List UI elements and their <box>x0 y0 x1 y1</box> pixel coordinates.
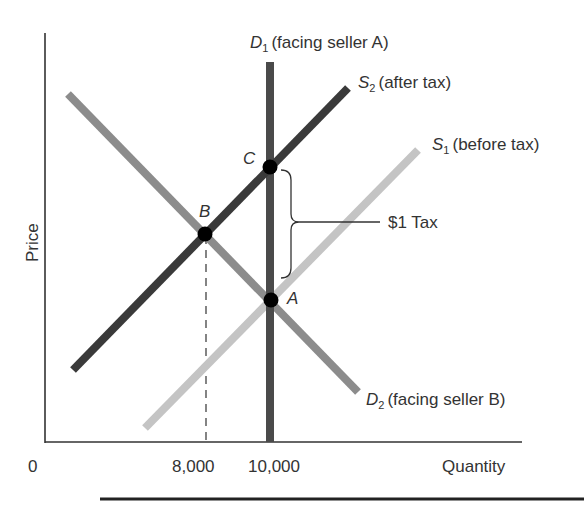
x-tick-10000: 10,000 <box>248 457 300 476</box>
tax-label: $1 Tax <box>388 213 438 232</box>
point-b-label: B <box>199 202 210 221</box>
x-axis-label: Quantity <box>442 457 506 476</box>
y-axis-label: Price <box>23 223 42 262</box>
s1-label: S1(before tax) <box>432 135 539 156</box>
origin-label: 0 <box>28 457 37 476</box>
s2-label: S2(after tax) <box>358 73 451 94</box>
d2-label: D2(facing seller B) <box>366 390 506 411</box>
point-a <box>264 293 279 308</box>
d1-label: D1(facing seller A) <box>250 33 389 54</box>
point-c-label: C <box>243 149 256 168</box>
point-b <box>198 227 213 242</box>
x-tick-8000: 8,000 <box>172 457 215 476</box>
point-c <box>263 160 278 175</box>
s1-curve <box>145 150 418 428</box>
point-a-label: A <box>286 289 298 308</box>
d2-curve <box>68 94 358 392</box>
tax-incidence-chart: C B A D1(facing seller A) S2(after tax) … <box>0 0 584 507</box>
tax-brace <box>281 170 299 278</box>
